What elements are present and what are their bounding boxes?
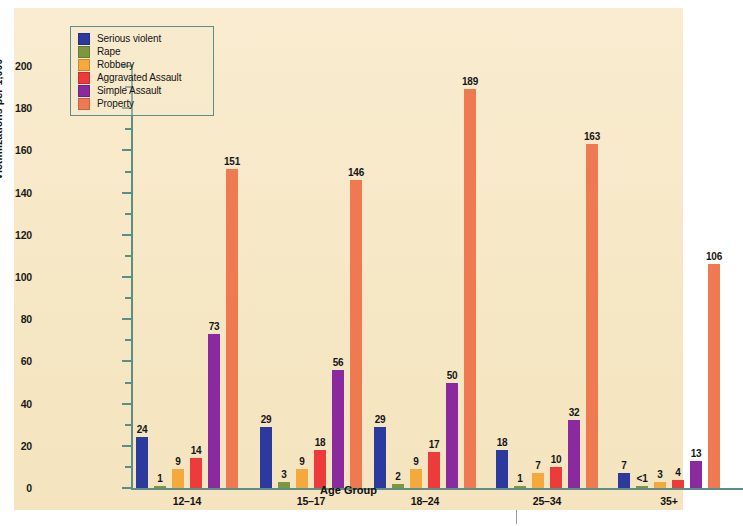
legend-label: Rape (97, 46, 121, 57)
x-axis-category-label: 12–14 (136, 495, 238, 507)
y-tick-major (122, 403, 131, 405)
x-axis-title: Age Group (0, 484, 697, 496)
y-tick-minor (125, 297, 131, 299)
y-tick-label: 160 (0, 144, 32, 156)
y-tick-label: 60 (0, 355, 32, 367)
bar-item[interactable]: 18 (496, 434, 508, 488)
bar-value-label: 2 (395, 471, 400, 482)
legend-item[interactable]: Rape (78, 45, 207, 58)
bar-item[interactable]: 17 (428, 436, 440, 488)
x-axis-category-label: 25–34 (496, 495, 598, 507)
y-tick-major (122, 276, 131, 278)
legend-color-swatch (78, 46, 90, 58)
x-axis-category-label: 15–17 (260, 495, 362, 507)
bar-item[interactable]: 56 (332, 354, 344, 488)
bar-rect[interactable] (136, 437, 148, 488)
bar-item[interactable]: 14 (190, 442, 202, 488)
bar-item[interactable]: 50 (446, 367, 458, 489)
bar-rect[interactable] (226, 169, 238, 488)
bar-value-label: 9 (413, 456, 418, 467)
bar-value-label: 14 (191, 445, 202, 456)
legend-label: Serious violent (97, 33, 161, 44)
y-axis-line (131, 64, 133, 488)
bar-group: 29291750189 (374, 66, 476, 488)
bar-rect[interactable] (428, 452, 440, 488)
y-tick-minor (125, 424, 131, 426)
y-tick-major (122, 445, 131, 447)
bar-rect[interactable] (260, 427, 272, 488)
bar-value-label: <1 (636, 473, 647, 484)
bar-rect[interactable] (464, 89, 476, 488)
bar-item[interactable]: 10 (550, 451, 562, 488)
y-tick-minor (125, 255, 131, 257)
bar-item[interactable]: 32 (568, 404, 580, 488)
legend-color-swatch (78, 59, 90, 71)
bar-value-label: 106 (706, 251, 722, 262)
bar-value-label: 1 (157, 473, 162, 484)
bar-rect[interactable] (708, 264, 720, 488)
bar-item[interactable]: 9 (172, 453, 184, 488)
legend-item[interactable]: Aggravated Assault (78, 71, 207, 84)
y-tick-label: 20 (0, 440, 32, 452)
bar-value-label: 32 (569, 407, 580, 418)
bar-rect[interactable] (586, 144, 598, 488)
bar-rect[interactable] (568, 420, 580, 488)
bar-item[interactable]: 29 (374, 411, 386, 488)
bar-group: 18171032163 (496, 66, 598, 488)
bar-item[interactable]: 146 (350, 164, 362, 488)
bar-item[interactable]: 106 (708, 248, 720, 488)
bar-item[interactable]: 13 (690, 445, 702, 488)
bar-item[interactable]: 189 (464, 73, 476, 488)
y-tick-label: 40 (0, 398, 32, 410)
y-tick-minor (125, 128, 131, 130)
bar-item[interactable]: 9 (296, 453, 308, 488)
legend-item[interactable]: Serious violent (78, 32, 207, 45)
bar-group: 29391856146 (260, 66, 362, 488)
legend-label: Aggravated Assault (97, 72, 181, 83)
bar-value-label: 163 (584, 131, 600, 142)
bar-rect[interactable] (350, 180, 362, 488)
y-tick-label: 80 (0, 313, 32, 325)
bar-item[interactable]: 73 (208, 318, 220, 488)
bar-value-label: 7 (535, 460, 540, 471)
bar-value-label: 7 (621, 460, 626, 471)
bar-value-label: 18 (497, 437, 508, 448)
legend-color-swatch (78, 98, 90, 110)
bar-rect[interactable] (446, 383, 458, 489)
bar-value-label: 17 (429, 439, 440, 450)
bar-rect[interactable] (314, 450, 326, 488)
y-tick-minor (125, 339, 131, 341)
legend-item[interactable]: Property (78, 97, 207, 110)
y-tick-minor (125, 466, 131, 468)
y-tick-major (122, 234, 131, 236)
legend-color-swatch (78, 85, 90, 97)
legend-label: Property (97, 98, 134, 109)
bar-value-label: 4 (675, 467, 680, 478)
legend-label: Robbery (97, 59, 134, 70)
bar-value-label: 50 (447, 370, 458, 381)
y-tick-label: 120 (0, 229, 32, 241)
bar-item[interactable]: 9 (410, 453, 422, 488)
bar-value-label: 29 (375, 414, 386, 425)
y-tick-minor (125, 213, 131, 215)
legend-color-swatch (78, 33, 90, 45)
bar-rect[interactable] (374, 427, 386, 488)
y-tick-label: 180 (0, 102, 32, 114)
bar-item[interactable]: 24 (136, 421, 148, 488)
bar-rect[interactable] (332, 370, 344, 488)
y-tick-label: 200 (0, 60, 32, 72)
bar-item[interactable]: 29 (260, 411, 272, 488)
bar-value-label: 10 (551, 454, 562, 465)
legend-item[interactable]: Simple Assault (78, 84, 207, 97)
chart-legend: Serious violentRapeRobberyAggravated Ass… (70, 26, 214, 116)
bar-item[interactable]: 18 (314, 434, 326, 488)
legend-item[interactable]: Robbery (78, 58, 207, 71)
bar-rect[interactable] (496, 450, 508, 488)
bar-value-label: 3 (281, 469, 286, 480)
bar-rect[interactable] (208, 334, 220, 488)
bar-item[interactable]: 151 (226, 153, 238, 488)
bar-item[interactable]: 163 (586, 128, 598, 488)
bar-value-label: 13 (691, 448, 702, 459)
bar-value-label: 3 (657, 469, 662, 480)
